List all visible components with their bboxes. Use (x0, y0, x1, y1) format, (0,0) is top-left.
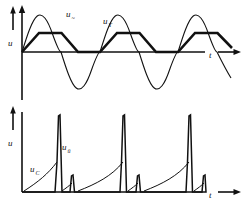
bottom-x-axis-label: t (209, 190, 212, 200)
capacitor-label-group: u C (30, 164, 41, 176)
top-waveform-plot: u t u ~ u T (0, 0, 244, 104)
bottom-y-axis-label: u (8, 138, 13, 148)
capacitor-envelope-curve (24, 162, 189, 191)
bottom-x-axis-arrowhead (234, 189, 242, 195)
trapezoid-wave-label-group: u T (103, 16, 113, 28)
bottom-y-axis-arrowhead (10, 106, 16, 114)
top-x-axis-label: t (209, 50, 212, 60)
spike-train-curve (22, 115, 206, 192)
waveform-figure: u t u ~ u T (0, 0, 244, 208)
trapezoid-wave-label: u (103, 16, 108, 26)
sine-wave-label: u (66, 9, 71, 19)
spike-label-subscript: ü (68, 148, 71, 154)
sine-wave-label-subscript: ~ (72, 15, 76, 21)
top-x-axis-arrowhead (234, 49, 242, 55)
bottom-waveform-plot: u t u ü u C (0, 104, 244, 208)
spike-label-group: u ü (62, 142, 71, 154)
trapezoid-wave-label-subscript: T (109, 22, 113, 28)
capacitor-label: u (30, 164, 35, 174)
top-y-axis-label: u (8, 38, 13, 48)
top-y-axis-tick-arrowhead (10, 6, 16, 14)
sine-wave-label-group: u ~ (66, 9, 76, 21)
capacitor-label-subscript: C (36, 170, 41, 176)
top-y-axis-arrowhead (19, 5, 25, 13)
spike-label: u (62, 142, 67, 152)
